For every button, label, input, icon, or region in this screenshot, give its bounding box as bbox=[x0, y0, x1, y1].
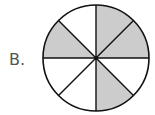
center-dot bbox=[94, 56, 98, 60]
fraction-circle bbox=[0, 0, 155, 115]
